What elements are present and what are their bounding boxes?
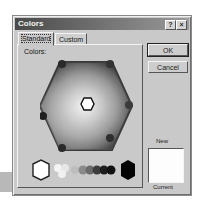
standard-tab-panel: Colors: (17, 44, 143, 188)
white-swatch-selected (33, 160, 49, 180)
cancel-button[interactable]: Cancel (148, 61, 188, 73)
dialog-title: Colors (18, 18, 43, 30)
new-color-label: New (156, 138, 168, 144)
corner-swatch-tl (58, 60, 66, 68)
help-button[interactable]: ? (165, 20, 176, 30)
current-color-label: Current (153, 184, 173, 190)
greyscale-swatch-row[interactable] (29, 158, 139, 186)
tab-standard[interactable]: Standard (18, 32, 54, 46)
color-preview-swatch (148, 148, 184, 183)
selected-color-marker (81, 98, 94, 110)
close-button[interactable]: × (176, 20, 187, 30)
colors-dialog: Colors ? × Standard Custom Colors: (12, 15, 192, 196)
colors-label: Colors: (24, 48, 46, 55)
corner-swatch-tr (106, 60, 114, 68)
ok-button[interactable]: OK (148, 44, 188, 56)
tab-standard-label: Standard (22, 35, 50, 42)
tab-custom-label: Custom (59, 36, 83, 43)
title-bar[interactable]: Colors ? × (15, 18, 189, 30)
color-hexagon-palette[interactable] (40, 58, 134, 154)
